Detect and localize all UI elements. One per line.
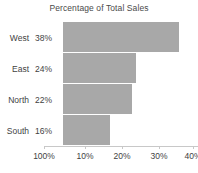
x-tick-label-2: 20% xyxy=(113,151,130,161)
x-tick-label-0: 100% xyxy=(33,151,55,161)
plot-area xyxy=(62,22,198,146)
bar-chart: Percentage of Total Sales West 38% East … xyxy=(0,0,198,173)
category-label-south: South xyxy=(7,126,29,136)
bar-row-south xyxy=(62,115,198,146)
x-tick-mark-2 xyxy=(122,146,123,149)
category-label-east: East xyxy=(12,64,29,74)
x-axis-line xyxy=(44,146,198,147)
x-tick-label-1: 10% xyxy=(76,151,93,161)
bar-north xyxy=(62,84,132,115)
value-label-south: 16% xyxy=(35,126,58,136)
row-label-north: North 22% xyxy=(0,84,58,115)
row-label-south: South 16% xyxy=(0,115,58,146)
chart-title: Percentage of Total Sales xyxy=(0,3,198,13)
category-label-north: North xyxy=(8,95,29,105)
bar-east xyxy=(62,53,136,84)
bar-row-west xyxy=(62,22,198,53)
bar-west xyxy=(62,22,179,53)
value-label-west: 38% xyxy=(35,33,58,43)
x-tick-mark-0 xyxy=(44,146,45,149)
value-label-east: 24% xyxy=(35,64,58,74)
x-tick-mark-4 xyxy=(193,146,194,149)
x-tick-mark-1 xyxy=(85,146,86,149)
x-tick-label-4: 40% xyxy=(184,151,198,161)
x-tick-label-3: 30% xyxy=(150,151,167,161)
row-label-east: East 24% xyxy=(0,53,58,84)
row-label-west: West 38% xyxy=(0,22,58,53)
plot-left-edge xyxy=(62,22,63,146)
bar-row-east xyxy=(62,53,198,84)
bar-south xyxy=(62,115,110,146)
category-label-west: West xyxy=(10,33,29,43)
x-tick-mark-3 xyxy=(159,146,160,149)
value-label-north: 22% xyxy=(35,95,58,105)
bar-row-north xyxy=(62,84,198,115)
